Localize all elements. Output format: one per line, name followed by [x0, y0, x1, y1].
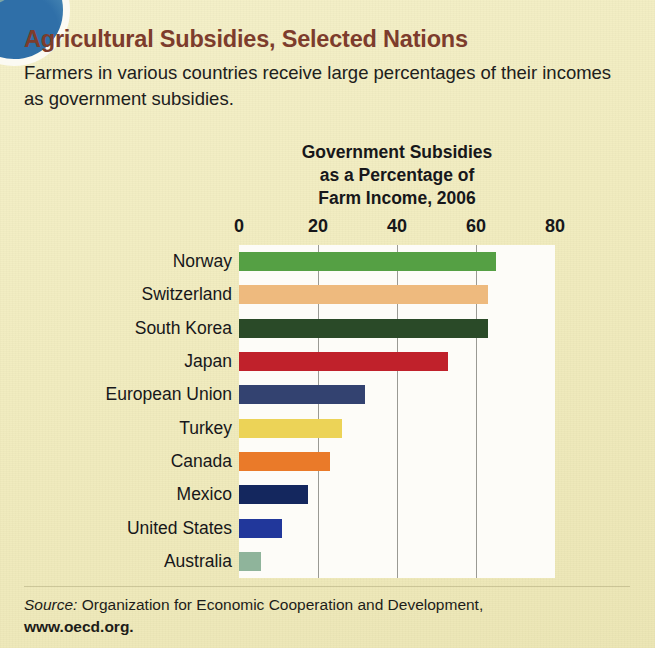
source-text: Organization for Economic Cooperation an…	[77, 596, 483, 613]
category-label-japan: Japan	[184, 352, 232, 371]
x-tick-label: 60	[466, 216, 486, 237]
category-label-switzerland: Switzerland	[142, 285, 232, 304]
bar-chart: Government Subsidiesas a Percentage ofFa…	[0, 0, 655, 648]
bar-south-korea	[239, 319, 488, 338]
category-label-mexico: Mexico	[177, 485, 232, 504]
plot-area	[239, 245, 555, 578]
bar-european-union	[239, 385, 365, 404]
category-label-australia: Australia	[164, 552, 232, 571]
bar-turkey	[239, 419, 342, 438]
category-label-turkey: Turkey	[179, 419, 232, 438]
chart-title-line: as a Percentage of	[239, 164, 555, 187]
source-label: Source:	[24, 596, 77, 613]
y-axis-category-labels: NorwaySwitzerlandSouth KoreaJapanEuropea…	[0, 245, 232, 578]
x-tick-label: 0	[234, 216, 244, 237]
category-label-canada: Canada	[171, 452, 232, 471]
bar-norway	[239, 252, 496, 271]
source-note: Source: Organization for Economic Cooper…	[24, 594, 634, 639]
source-url[interactable]: www.oecd.org.	[24, 618, 134, 635]
x-tick-label: 20	[308, 216, 328, 237]
chart-title-line: Government Subsidies	[239, 141, 555, 164]
x-tick-label: 40	[387, 216, 407, 237]
chart-title: Government Subsidiesas a Percentage ofFa…	[239, 141, 555, 210]
category-label-south-korea: South Korea	[135, 319, 232, 338]
chart-title-line: Farm Income, 2006	[239, 187, 555, 210]
category-label-european-union: European Union	[106, 385, 232, 404]
bar-mexico	[239, 485, 308, 504]
bar-united-states	[239, 519, 282, 538]
divider	[24, 586, 630, 587]
bar-canada	[239, 452, 330, 471]
category-label-norway: Norway	[173, 252, 232, 271]
bar-switzerland	[239, 285, 488, 304]
x-tick-label: 80	[545, 216, 565, 237]
category-label-united-states: United States	[127, 519, 232, 538]
bar-australia	[239, 552, 261, 571]
bar-japan	[239, 352, 448, 371]
x-axis: 020406080	[239, 216, 555, 240]
